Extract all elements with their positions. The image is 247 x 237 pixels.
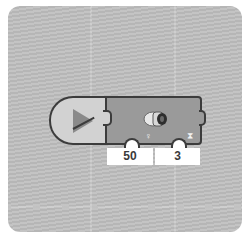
duration-input-plug xyxy=(171,138,187,148)
start-block[interactable] xyxy=(49,96,107,145)
block-connector-notch xyxy=(103,110,112,126)
power-icon: ♀ xyxy=(145,131,152,141)
block-connector-bump xyxy=(199,110,206,126)
hourglass-icon: ⧗ xyxy=(187,131,193,141)
motor-block[interactable]: ♀ ⧗ xyxy=(105,96,202,145)
large-motor-icon xyxy=(143,108,169,128)
power-value-input[interactable]: 50 xyxy=(107,148,153,165)
duration-value-input[interactable]: 3 xyxy=(155,148,200,165)
power-input-plug xyxy=(124,138,140,148)
